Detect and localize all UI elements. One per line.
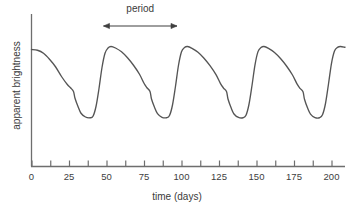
x-tick-label: 175 bbox=[274, 172, 314, 182]
x-axis-title: time (days) bbox=[0, 191, 354, 202]
x-tick-label: 75 bbox=[124, 172, 164, 182]
x-axis-ticks bbox=[32, 161, 332, 167]
x-tick-label: 0 bbox=[12, 172, 52, 182]
x-tick-label: 150 bbox=[237, 172, 277, 182]
period-arrow-head-right bbox=[171, 23, 177, 28]
period-annotation-label: period bbox=[84, 3, 198, 14]
axis-lines bbox=[31, 14, 345, 167]
x-tick-label: 125 bbox=[199, 172, 239, 182]
y-axis-title: apparent brightness bbox=[11, 21, 22, 151]
period-arrow-head-left bbox=[104, 23, 110, 28]
x-tick-label: 25 bbox=[49, 172, 89, 182]
light-curve-chart: period time (days) apparent brightness 0… bbox=[0, 0, 354, 214]
x-tick-label: 200 bbox=[312, 172, 352, 182]
x-tick-label: 50 bbox=[87, 172, 127, 182]
period-arrow bbox=[104, 23, 178, 28]
brightness-curve bbox=[32, 46, 346, 118]
x-tick-label: 100 bbox=[162, 172, 202, 182]
